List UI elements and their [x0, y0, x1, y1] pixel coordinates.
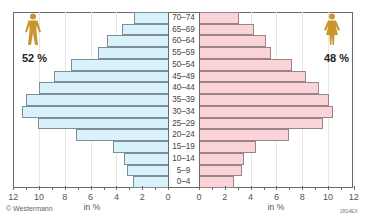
- age-group-label: 50–54: [168, 59, 199, 71]
- x-tick-label-left: 10: [29, 192, 49, 202]
- female-bar: [199, 47, 271, 59]
- axis-tick: [26, 187, 27, 190]
- right-axis-zero-line: [199, 12, 200, 188]
- x-axis-unit-right: in %: [261, 202, 291, 212]
- age-group-label: 10–14: [168, 153, 199, 165]
- axis-tick: [155, 187, 156, 190]
- age-group-label: 70–74: [168, 12, 199, 24]
- male-bar: [54, 71, 168, 83]
- male-bar: [98, 47, 168, 59]
- axis-tick: [39, 186, 40, 190]
- axis-tick: [328, 186, 329, 190]
- age-group-label: 40–44: [168, 82, 199, 94]
- male-bar: [113, 141, 168, 153]
- x-tick-label-left: 6: [81, 192, 101, 202]
- age-group-label: 30–34: [168, 106, 199, 118]
- female-bar: [199, 94, 329, 106]
- x-tick-label-left: 12: [3, 192, 23, 202]
- male-bar: [122, 24, 168, 36]
- x-tick-label-right: 4: [241, 192, 261, 202]
- x-tick-label-left: 4: [106, 192, 126, 202]
- female-bar: [199, 59, 292, 71]
- male-bar: [134, 12, 168, 24]
- x-tick-label-left: 0: [158, 192, 178, 202]
- age-group-label: 55–59: [168, 47, 199, 59]
- axis-tick: [13, 186, 14, 190]
- axis-tick: [65, 186, 66, 190]
- age-group-label: 5–9: [168, 165, 199, 177]
- axis-tick: [129, 187, 130, 190]
- age-group-label: 15–19: [168, 141, 199, 153]
- female-bar: [199, 118, 323, 130]
- axis-tick: [104, 187, 105, 190]
- x-tick-label-left: 2: [132, 192, 152, 202]
- male-bar: [107, 35, 168, 47]
- population-pyramid-chart: 70–7465–6960–6455–5950–5445–4940–4435–39…: [0, 0, 368, 219]
- age-group-label: 35–39: [168, 94, 199, 106]
- axis-tick: [264, 187, 265, 190]
- female-bar: [199, 129, 289, 141]
- axis-tick: [315, 187, 316, 190]
- male-bar: [76, 129, 168, 141]
- male-bar: [133, 176, 168, 188]
- x-tick-label-right: 0: [189, 192, 209, 202]
- axis-tick: [341, 187, 342, 190]
- axis-tick: [302, 186, 303, 190]
- axis-tick: [238, 187, 239, 190]
- female-bar: [199, 165, 242, 177]
- age-group-label: 65–69: [168, 24, 199, 36]
- male-bar: [22, 106, 168, 118]
- female-bar: [199, 106, 333, 118]
- copyright-credit: © Westermann: [6, 205, 53, 212]
- axis-tick: [276, 186, 277, 190]
- female-bar: [199, 153, 244, 165]
- x-tick-label-left: 8: [55, 192, 75, 202]
- axis-tick: [212, 187, 213, 190]
- figure-code: 2814EX: [340, 208, 358, 214]
- male-bar: [124, 153, 168, 165]
- female-bar: [199, 24, 254, 36]
- axis-tick: [52, 187, 53, 190]
- age-group-label: 20–24: [168, 129, 199, 141]
- axis-tick: [354, 186, 355, 190]
- female-bar: [199, 71, 306, 83]
- x-tick-label-right: 6: [266, 192, 286, 202]
- male-share-label: 52 %: [22, 52, 47, 64]
- female-bar: [199, 12, 239, 24]
- age-group-label: 60–64: [168, 35, 199, 47]
- axis-tick: [251, 186, 252, 190]
- age-group-label: 0–4: [168, 176, 199, 188]
- female-bar: [199, 176, 234, 188]
- x-tick-label-right: 2: [215, 192, 235, 202]
- male-bar: [71, 59, 168, 71]
- axis-tick: [289, 187, 290, 190]
- female-share-label: 48 %: [324, 52, 349, 64]
- axis-tick: [199, 186, 200, 190]
- x-tick-label-right: 10: [318, 192, 338, 202]
- male-bar: [26, 94, 168, 106]
- age-group-label: 45–49: [168, 71, 199, 83]
- axis-tick: [78, 187, 79, 190]
- x-tick-label-right: 12: [344, 192, 364, 202]
- male-bar: [38, 118, 168, 130]
- axis-tick: [116, 186, 117, 190]
- age-group-label: 25–29: [168, 118, 199, 130]
- axis-tick: [91, 186, 92, 190]
- female-bar: [199, 82, 319, 94]
- x-tick-label-right: 8: [292, 192, 312, 202]
- axis-tick: [168, 186, 169, 190]
- left-axis-zero-line: [168, 12, 169, 188]
- female-figure-icon: [323, 13, 341, 46]
- female-bar: [199, 35, 266, 47]
- axis-tick: [142, 186, 143, 190]
- male-bar: [39, 82, 168, 94]
- axis-tick: [225, 186, 226, 190]
- x-axis-unit-left: in %: [77, 202, 107, 212]
- male-bar: [127, 165, 168, 177]
- male-figure-icon: [24, 13, 42, 46]
- female-bar: [199, 141, 256, 153]
